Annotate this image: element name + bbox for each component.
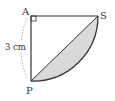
right-angle-marker bbox=[31, 16, 36, 21]
quarter-circle-diagram: A S P 3 cm bbox=[0, 0, 115, 101]
label-P: P bbox=[26, 85, 33, 96]
radius-length-label: 3 cm bbox=[5, 42, 26, 52]
label-A: A bbox=[21, 6, 30, 17]
diagram-canvas: A S P 3 cm bbox=[0, 0, 115, 101]
label-S: S bbox=[100, 10, 107, 21]
